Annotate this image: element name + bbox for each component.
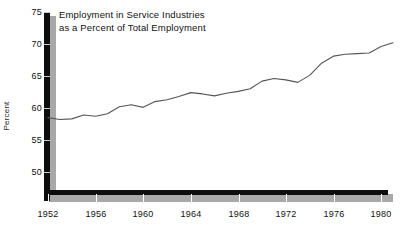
chart-figure: Percent 75 70 65 60 55 50 1952 1956 1960… bbox=[0, 0, 402, 238]
chart-title: Employment in Service Industries as a Pe… bbox=[59, 9, 206, 34]
employment-share-line bbox=[48, 43, 393, 120]
chart-plot-area bbox=[0, 0, 402, 238]
